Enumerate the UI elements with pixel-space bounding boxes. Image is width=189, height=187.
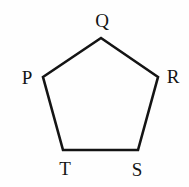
vertex-label-r: R	[167, 67, 180, 86]
pentagon-diagram: Q P R T S	[0, 0, 189, 187]
vertex-label-s: S	[132, 160, 143, 179]
vertex-label-t: T	[59, 159, 71, 178]
vertex-label-p: P	[22, 68, 33, 87]
pentagon-outline	[43, 38, 158, 150]
vertex-label-q: Q	[95, 11, 109, 30]
